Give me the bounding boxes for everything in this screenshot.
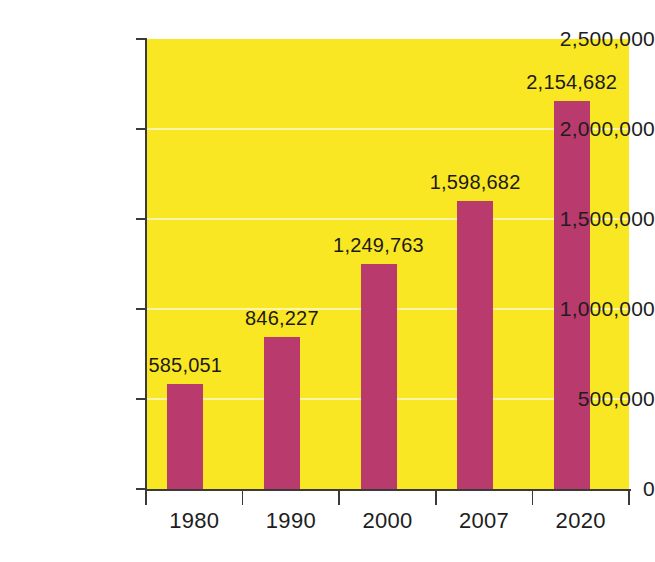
bar-value-label: 846,227 bbox=[245, 307, 319, 330]
y-axis-tick-label: 0 bbox=[523, 477, 655, 501]
y-axis-tick bbox=[136, 218, 146, 220]
bar[interactable] bbox=[554, 101, 590, 489]
bar-value-label: 2,154,682 bbox=[526, 71, 617, 94]
y-axis-tick bbox=[136, 128, 146, 130]
bar-value-label: 1,249,763 bbox=[333, 234, 424, 257]
bar[interactable] bbox=[361, 264, 397, 489]
y-axis-tick bbox=[136, 308, 146, 310]
y-axis-tick-label: 500,000 bbox=[523, 387, 655, 411]
x-axis-tick bbox=[242, 490, 244, 505]
x-axis-tick-label: 2020 bbox=[556, 508, 606, 534]
y-axis-tick-label: 2,000,000 bbox=[523, 117, 655, 141]
bar[interactable] bbox=[167, 384, 203, 489]
y-axis-line bbox=[145, 38, 147, 490]
x-axis-tick-label: 1980 bbox=[169, 508, 219, 534]
y-axis-tick bbox=[136, 38, 146, 40]
x-axis-tick-label: 2007 bbox=[459, 508, 509, 534]
bar-value-label: 585,051 bbox=[148, 354, 222, 377]
x-axis-tick bbox=[338, 490, 340, 505]
y-axis-tick-label: 1,000,000 bbox=[523, 297, 655, 321]
y-axis-tick bbox=[136, 398, 146, 400]
bar[interactable] bbox=[264, 337, 300, 489]
bar-chart: 0500,0001,000,0001,500,0002,000,0002,500… bbox=[0, 0, 655, 562]
x-axis-tick bbox=[145, 490, 147, 505]
x-axis-tick-label: 1990 bbox=[266, 508, 316, 534]
y-axis-tick-label: 2,500,000 bbox=[523, 27, 655, 51]
bar-value-label: 1,598,682 bbox=[430, 171, 521, 194]
y-axis-tick-label: 1,500,000 bbox=[523, 207, 655, 231]
x-axis-tick-label: 2000 bbox=[362, 508, 412, 534]
plot-area bbox=[146, 39, 629, 489]
bar[interactable] bbox=[457, 201, 493, 489]
x-axis-tick bbox=[435, 490, 437, 505]
